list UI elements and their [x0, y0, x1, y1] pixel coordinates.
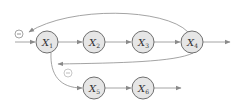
- node-x2: X2: [83, 31, 105, 53]
- node-x6: X6: [132, 77, 154, 99]
- node-x3: X3: [132, 31, 154, 53]
- node-x5: X5: [83, 77, 105, 99]
- minus-sign-icon: [15, 30, 23, 38]
- node-x4: X4: [181, 31, 203, 53]
- node-x1: X1: [36, 31, 58, 53]
- process-flow-diagram: X1 X2 X3 X4 X5 X6: [0, 0, 247, 103]
- edge-x4-feedback-top: [29, 13, 188, 32]
- minus-sign-icon: [64, 69, 72, 77]
- edge-x4-feedback-bottom: [58, 53, 193, 64]
- diagram-canvas: X1 X2 X3 X4 X5 X6: [0, 0, 247, 103]
